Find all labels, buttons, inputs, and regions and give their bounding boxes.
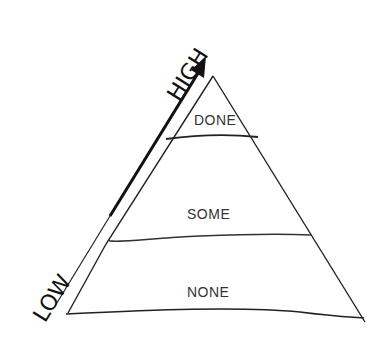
divider-some xyxy=(108,234,311,241)
divider-done xyxy=(166,135,258,139)
level-label-done: DONE xyxy=(194,112,236,128)
pyramid-left-edge xyxy=(68,76,213,313)
level-label-none: NONE xyxy=(187,284,229,300)
pyramid-base xyxy=(66,309,364,318)
level-label-some: SOME xyxy=(187,206,230,222)
